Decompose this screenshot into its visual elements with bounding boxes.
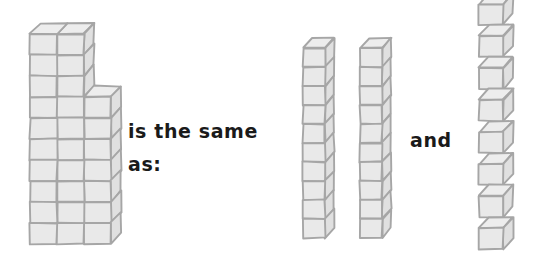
cube-front-face	[359, 144, 382, 163]
cube-front-face	[303, 199, 326, 219]
cube-front-face	[84, 118, 111, 139]
cube-front-face	[29, 223, 57, 245]
cube-front-face	[360, 124, 383, 143]
cube-front-face	[479, 68, 503, 90]
cube-front-face	[360, 200, 382, 219]
label-as: as:	[128, 155, 162, 174]
cube-front-face	[359, 181, 382, 201]
cube-front-face	[479, 132, 504, 154]
cube-front-face	[303, 105, 326, 124]
stepped-cube-r1-c0	[30, 55, 58, 77]
cube-front-face	[57, 139, 84, 160]
cube-front-face	[30, 202, 58, 224]
cube-front-face	[84, 181, 111, 203]
cube-front-face	[57, 117, 84, 138]
loose-single-cubes	[478, 0, 513, 250]
cube-front-face	[84, 139, 111, 161]
stepped-cube-r8-c0	[30, 202, 58, 224]
cube-front-face	[29, 160, 57, 182]
label-is-the-same: is the same	[128, 122, 258, 141]
stepped-cube-r9-c0	[29, 223, 57, 245]
stepped-cube-r6-c1	[57, 160, 84, 181]
cube-front-face	[303, 181, 326, 200]
stepped-block-structure	[29, 23, 121, 244]
cube-front-face	[29, 138, 57, 160]
cube-front-face	[29, 118, 57, 139]
cube-front-face	[303, 48, 326, 67]
cube-front-face	[57, 34, 84, 55]
loose-cube-8	[479, 217, 514, 249]
cube-front-face	[479, 228, 504, 250]
cube-front-face	[83, 160, 111, 182]
cube-front-face	[57, 160, 84, 181]
cube-front-face	[57, 55, 84, 76]
cube-front-face	[360, 105, 383, 124]
stepped-cube-r3-c1	[56, 96, 84, 117]
cube-front-face	[303, 124, 325, 143]
cube-front-face	[30, 55, 58, 77]
cube-tower-2	[359, 38, 391, 238]
cube-front-face	[360, 86, 383, 105]
stepped-cube-r4-c1	[57, 117, 84, 138]
loose-cube-5	[479, 121, 514, 153]
stepped-cube-r9-c1	[57, 223, 85, 245]
loose-cube-6	[478, 153, 513, 185]
loose-cube-2	[479, 25, 514, 57]
cube-front-face	[30, 97, 57, 118]
cube-front-face	[478, 164, 503, 185]
stepped-cube-r5-c1	[57, 139, 84, 160]
cube-front-face	[479, 100, 504, 122]
stepped-cube-r6-c0	[29, 160, 57, 182]
label-and: and	[410, 131, 452, 150]
illustration-canvas: is the same as: and	[0, 0, 543, 260]
cube-front-face	[360, 67, 382, 86]
cube-front-face	[478, 5, 503, 26]
loose-cube-7	[479, 184, 514, 217]
cube-illustration-svg	[0, 0, 543, 260]
cube-front-face	[57, 202, 84, 224]
cube-front-face	[479, 36, 503, 57]
stepped-cube-r4-c0	[29, 118, 57, 139]
cube-front-face	[360, 48, 382, 68]
cube-front-face	[84, 223, 111, 244]
stepped-cube-r2-c0	[30, 75, 57, 97]
cube-front-face	[302, 161, 325, 181]
loose-cube-3	[479, 57, 514, 90]
stepped-cube-r7-c1	[57, 181, 84, 202]
cube-front-face	[29, 34, 57, 55]
cube-front-face	[360, 219, 383, 238]
cube-front-face	[56, 96, 84, 117]
cube-front-face	[303, 86, 326, 106]
cube-front-face	[57, 223, 85, 245]
stepped-cube-r8-c1	[57, 202, 84, 224]
cube-front-face	[303, 219, 326, 239]
cube-front-face	[360, 162, 382, 182]
cube-front-face	[303, 143, 326, 162]
stepped-cube-r7-c0	[30, 181, 56, 202]
cube-front-face	[84, 202, 112, 223]
stepped-cube-r3-c0	[30, 97, 57, 118]
cube-front-face	[479, 196, 504, 217]
cube-front-face	[84, 97, 111, 118]
cube-front-face	[30, 181, 56, 202]
cube-front-face	[57, 181, 84, 202]
stepped-cube-r5-c0	[29, 138, 57, 160]
loose-cube-4	[479, 89, 514, 122]
cube-front-face	[57, 76, 84, 98]
loose-cube-1	[478, 0, 513, 25]
cube-tower-1	[302, 38, 334, 239]
cube-front-face	[303, 67, 326, 86]
cube-front-face	[30, 75, 57, 97]
